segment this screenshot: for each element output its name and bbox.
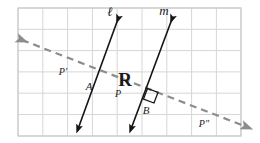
point-a-label: A xyxy=(85,80,93,92)
diagram-canvas: ℓ m A B R P P′ P″ xyxy=(0,0,260,143)
line-l-label: ℓ xyxy=(107,4,113,19)
line-m-label: m xyxy=(159,3,168,18)
point-p-prime-label: P′ xyxy=(58,66,68,77)
geometry-diagram: ℓ m A B R P P′ P″ xyxy=(0,0,260,143)
point-b-label: B xyxy=(143,104,150,116)
point-p-label: P xyxy=(114,88,121,99)
region-r-label: R xyxy=(118,69,132,90)
point-p-double-prime-label: P″ xyxy=(198,118,210,129)
